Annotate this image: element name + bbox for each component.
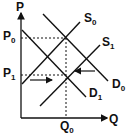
p1-label: P1 xyxy=(3,66,16,82)
demand-curve-d1 xyxy=(22,30,86,97)
d0-label: D0 xyxy=(112,77,126,93)
s0-label: S0 xyxy=(84,11,97,27)
d1-label: D1 xyxy=(89,86,103,102)
s1-label: S1 xyxy=(102,35,115,51)
y-axis-label: P xyxy=(16,0,24,14)
x-axis-label: Q xyxy=(109,112,118,126)
p0-label: P0 xyxy=(3,29,16,45)
q0-label: Q0 xyxy=(60,119,74,133)
supply-demand-diagram: P Q P0 P1 Q0 S0 S1 D0 D1 xyxy=(0,0,130,133)
